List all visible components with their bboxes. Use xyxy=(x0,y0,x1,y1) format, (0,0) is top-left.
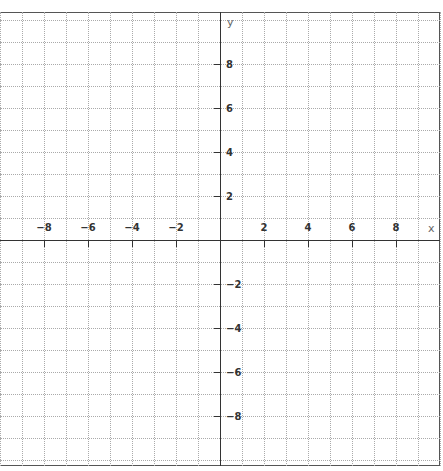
y-tick xyxy=(214,108,221,109)
x-tick-label: −8 xyxy=(36,222,51,233)
y-tick xyxy=(214,152,221,153)
x-tick-label: 8 xyxy=(393,222,400,233)
y-tick-label: 2 xyxy=(226,191,233,202)
y-tick xyxy=(214,328,221,329)
x-tick-label: 6 xyxy=(349,222,356,233)
y-axis-label: y xyxy=(227,16,234,29)
grid-line-v xyxy=(264,12,265,466)
y-tick-label: 8 xyxy=(226,59,233,70)
y-tick xyxy=(214,196,221,197)
x-tick-label: −6 xyxy=(80,222,95,233)
y-tick xyxy=(214,64,221,65)
x-tick xyxy=(44,240,45,247)
grid-line-v xyxy=(198,12,199,466)
grid-line-v xyxy=(110,12,111,466)
y-tick-label: 4 xyxy=(226,147,233,158)
x-tick-label: −4 xyxy=(124,222,139,233)
x-tick xyxy=(176,240,177,247)
grid-line-v xyxy=(44,12,45,466)
grid-line-v xyxy=(308,12,309,466)
x-tick-label: 4 xyxy=(305,222,312,233)
x-tick xyxy=(396,240,397,247)
grid-line-v xyxy=(286,12,287,466)
x-tick xyxy=(308,240,309,247)
grid-line-v xyxy=(0,12,1,466)
y-tick-label: 6 xyxy=(226,103,233,114)
grid-line-v xyxy=(88,12,89,466)
y-tick-label: −8 xyxy=(226,411,241,422)
x-tick xyxy=(88,240,89,247)
y-tick xyxy=(214,284,221,285)
grid-line-v xyxy=(132,12,133,466)
grid-line-v xyxy=(242,12,243,466)
grid-line-v xyxy=(330,12,331,466)
y-tick xyxy=(214,416,221,417)
x-tick xyxy=(264,240,265,247)
grid-line-v xyxy=(66,12,67,466)
x-tick xyxy=(132,240,133,247)
x-tick xyxy=(352,240,353,247)
y-tick-label: −4 xyxy=(226,323,241,334)
x-axis-label: x xyxy=(428,222,435,235)
y-tick-label: −6 xyxy=(226,367,241,378)
grid-line-v xyxy=(440,12,441,466)
grid-line-v xyxy=(418,12,419,466)
grid-line-v xyxy=(352,12,353,466)
grid-line-v xyxy=(22,12,23,466)
y-tick-label: −2 xyxy=(226,279,241,290)
y-axis xyxy=(220,12,221,466)
x-tick-label: 2 xyxy=(261,222,268,233)
grid-line-v xyxy=(396,12,397,466)
x-tick-label: −2 xyxy=(168,222,183,233)
y-tick xyxy=(214,372,221,373)
grid-line-v xyxy=(154,12,155,466)
grid-line-v xyxy=(176,12,177,466)
grid-line-v xyxy=(374,12,375,466)
